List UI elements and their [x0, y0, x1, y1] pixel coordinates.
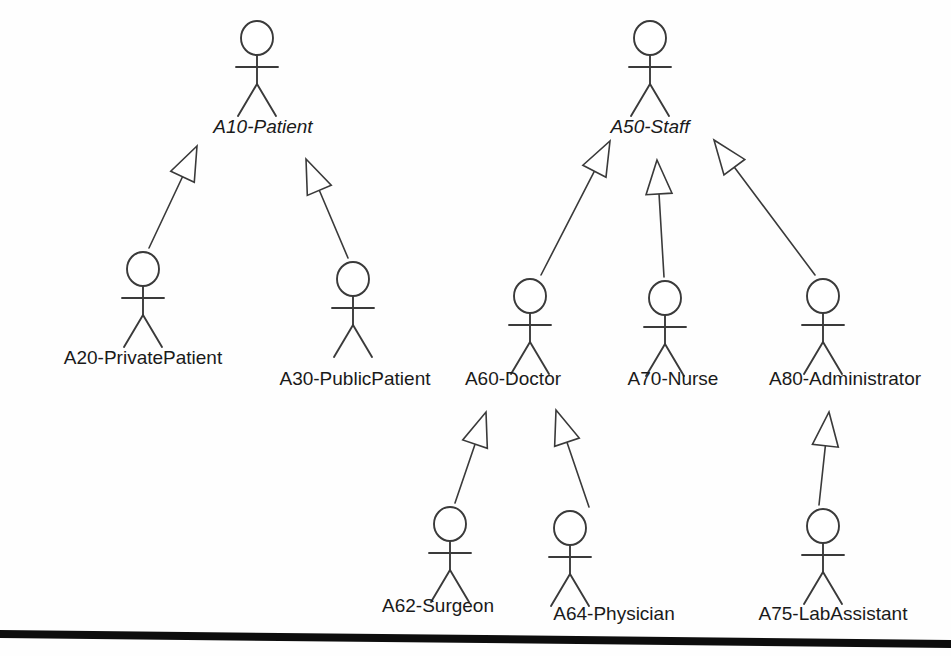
actor-stick-figure-icon — [429, 507, 471, 602]
actor-label: A62-Surgeon — [382, 595, 494, 616]
actor-label: A70-Nurse — [628, 368, 719, 389]
actor-a30[interactable]: A30-PublicPatient — [279, 262, 431, 389]
generalization-layer — [149, 140, 838, 507]
rule-layer — [0, 630, 951, 648]
actor-label: A80-Administrator — [769, 368, 922, 389]
generalization-arrow — [541, 141, 610, 275]
generalization-line — [659, 194, 664, 277]
hollow-triangle-arrowhead-icon — [171, 146, 197, 182]
actor-stick-figure-icon — [629, 21, 671, 116]
actor-stick-figure-icon — [644, 281, 686, 376]
actor-label: A75-LabAssistant — [759, 603, 909, 624]
generalization-line — [734, 167, 815, 275]
generalization-arrow — [149, 146, 197, 248]
generalization-arrow — [555, 410, 589, 507]
generalization-line — [541, 171, 594, 275]
generalization-arrow — [646, 160, 672, 277]
hollow-triangle-arrowhead-icon — [714, 140, 745, 175]
page-bottom-rule — [0, 630, 951, 648]
actor-stick-figure-icon — [802, 279, 844, 374]
hollow-triangle-arrowhead-icon — [306, 159, 331, 195]
hollow-triangle-arrowhead-icon — [646, 160, 672, 195]
actor-a60[interactable]: A60-Doctor — [465, 279, 562, 389]
hollow-triangle-arrowhead-icon — [555, 410, 580, 446]
generalization-line — [319, 190, 348, 258]
actor-stick-figure-icon — [549, 511, 591, 606]
actor-layer: A10-PatientA20-PrivatePatientA30-PublicP… — [64, 21, 922, 624]
actor-stick-figure-icon — [236, 21, 278, 116]
actor-a62[interactable]: A62-Surgeon — [382, 507, 494, 616]
generalization-arrow — [306, 159, 348, 258]
actor-a80[interactable]: A80-Administrator — [769, 279, 922, 389]
actor-label: A64-Physician — [553, 603, 674, 624]
actor-a10[interactable]: A10-Patient — [212, 21, 313, 137]
generalization-line — [819, 446, 825, 505]
uml-actor-hierarchy-diagram: A10-PatientA20-PrivatePatientA30-PublicP… — [0, 0, 951, 656]
generalization-line — [455, 444, 475, 503]
actor-a75[interactable]: A75-LabAssistant — [759, 509, 909, 624]
generalization-arrow — [714, 140, 815, 275]
generalization-line — [567, 442, 589, 507]
hollow-triangle-arrowhead-icon — [583, 141, 610, 177]
actor-label: A10-Patient — [212, 116, 313, 137]
actor-a50[interactable]: A50-Staff — [609, 21, 691, 137]
actor-label: A20-PrivatePatient — [64, 347, 223, 368]
generalization-line — [149, 177, 183, 248]
hollow-triangle-arrowhead-icon — [463, 412, 488, 448]
actor-label: A30-PublicPatient — [279, 368, 431, 389]
actor-stick-figure-icon — [802, 509, 844, 604]
generalization-arrow — [455, 412, 487, 503]
actor-stick-figure-icon — [122, 252, 164, 347]
actor-a64[interactable]: A64-Physician — [549, 511, 675, 624]
actor-a70[interactable]: A70-Nurse — [628, 281, 719, 389]
diagram-canvas: A10-PatientA20-PrivatePatientA30-PublicP… — [0, 0, 951, 656]
actor-stick-figure-icon — [509, 279, 551, 374]
actor-label: A50-Staff — [609, 116, 691, 137]
actor-stick-figure-icon — [332, 262, 374, 357]
hollow-triangle-arrowhead-icon — [812, 412, 838, 447]
actor-label: A60-Doctor — [465, 368, 562, 389]
generalization-arrow — [812, 412, 838, 505]
actor-a20[interactable]: A20-PrivatePatient — [64, 252, 223, 368]
